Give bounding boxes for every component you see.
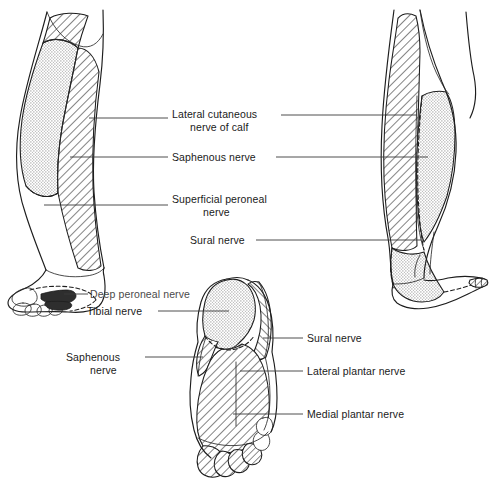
right-toe-hatch — [469, 279, 488, 288]
label-tibial-nerve: Tibial nerve — [87, 305, 142, 317]
label-sural-nerve-sole: Sural nerve — [307, 332, 362, 344]
label-deep-peroneal-nerve: Deep peroneal nerve — [90, 288, 190, 300]
sole-toe-5b-unhatched — [256, 417, 272, 435]
label-sural-nerve-upper: Sural nerve — [190, 234, 245, 246]
label-superficial-peroneal-nerve-line1: Superficial peroneal — [172, 193, 267, 205]
label-superficial-peroneal-nerve-line2: nerve — [203, 206, 230, 218]
label-medial-plantar-nerve: Medial plantar nerve — [307, 408, 404, 420]
label-lateral-cutaneous-nerve-of-calf-line2: nerve of calf — [190, 121, 249, 133]
label-saphenous-nerve: Saphenous nerve — [172, 151, 256, 163]
label-lateral-cutaneous-nerve-of-calf-line1: Lateral cutaneous — [172, 108, 257, 120]
anatomical-figure: Lateral cutaneous nerve of calf Saphenou… — [0, 0, 491, 485]
label-lateral-plantar-nerve: Lateral plantar nerve — [307, 365, 405, 377]
label-saphenous-nerve-sole-line1: Saphenous — [66, 351, 120, 363]
label-saphenous-nerve-sole-line2: nerve — [90, 364, 117, 376]
